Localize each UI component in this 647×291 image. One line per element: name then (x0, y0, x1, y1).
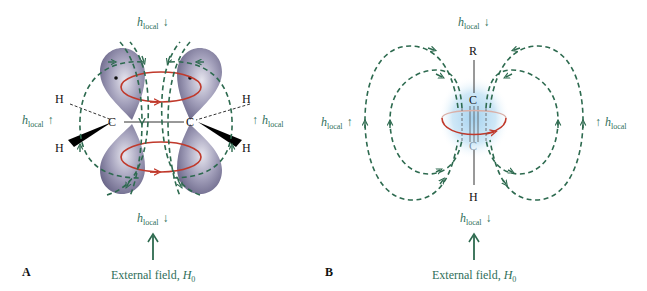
atom-c-left: C (108, 115, 116, 129)
atom-h-lower-right: H (242, 141, 251, 155)
h-local-left-a: hlocal↑ (22, 113, 54, 129)
atom-c-top: C (469, 93, 477, 107)
external-field-label-a: External field, H0 (111, 268, 195, 284)
atom-h-upper-right: H (242, 92, 251, 106)
h-local-bottom-a: hlocal↓ (137, 211, 169, 227)
ch-bond-dashed-right (196, 104, 250, 120)
panel-label-a: A (22, 265, 31, 279)
atom-h-upper-left: H (55, 92, 64, 106)
atom-c-right: C (186, 115, 194, 129)
atom-h-lower-left: H (55, 141, 64, 155)
panel-a: C C H H H H hlocal↓ hlocal↓ hlocal↑ ↑hlo… (22, 15, 284, 284)
h-local-top-b: hlocal↓ (458, 15, 490, 31)
h-local-left-b: hlocal↑ (321, 115, 353, 131)
atom-c-bottom: C (469, 139, 477, 153)
h-local-right-a: ↑hlocal (252, 113, 284, 129)
atom-r: R (469, 44, 477, 58)
h-local-bottom-b: hlocal↓ (460, 211, 492, 227)
h-local-top-a: hlocal↓ (137, 15, 169, 31)
ch-bond-dashed-left (70, 104, 112, 120)
wedge-bond-left (68, 122, 112, 147)
panel-b: R C C H hlocal↓ hlocal↓ hlocal↑ ↑hlocal … (321, 15, 627, 284)
panel-label-b: B (325, 265, 333, 279)
external-field-label-b: External field, H0 (432, 268, 516, 284)
atom-h: H (469, 190, 478, 204)
h-local-right-b: ↑hlocal (595, 115, 627, 131)
diagram-canvas: C C H H H H hlocal↓ hlocal↓ hlocal↑ ↑hlo… (0, 0, 647, 291)
